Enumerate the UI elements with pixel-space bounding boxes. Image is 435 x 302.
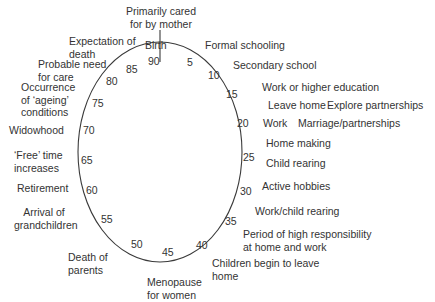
age-25: 25: [243, 151, 255, 163]
label-widowhood: Widowhood: [9, 124, 64, 137]
label-high-responsibility: Period of high responsibility at home an…: [243, 228, 371, 253]
age-50: 50: [131, 238, 143, 250]
age-85: 85: [126, 63, 138, 75]
label-formal-schooling: Formal schooling: [205, 39, 285, 52]
label-work-higher-education: Work or higher education: [262, 81, 379, 94]
label-line: at home and work: [243, 241, 371, 254]
label-line: Death of: [68, 251, 108, 264]
label-line: conditions: [21, 106, 75, 119]
label-free-time: ‘Free’ time increases: [14, 149, 63, 174]
label-birth: Birth: [145, 39, 167, 52]
label-menopause: Menopause for women: [147, 276, 202, 301]
label-marriage-partnerships: Marriage/partnerships: [298, 117, 400, 130]
label-child-rearing: Child rearing: [266, 157, 326, 170]
label-line: Primarily cared: [118, 5, 204, 18]
label-children-leave-home: Children begin to leave home: [212, 257, 319, 282]
label-line: Children begin to leave: [212, 257, 319, 270]
label-death-of-parents: Death of parents: [68, 251, 108, 276]
age-80: 80: [106, 75, 118, 87]
age-5: 5: [187, 56, 193, 68]
label-line: for care: [38, 71, 106, 84]
label-line: home: [212, 270, 319, 283]
label-line: Expectation of: [69, 35, 136, 48]
label-line: grandchildren: [14, 219, 74, 232]
age-90: 90: [148, 55, 160, 67]
label-expectation-of-death: Expectation of death: [69, 35, 136, 60]
label-line: for by mother: [118, 18, 204, 31]
age-40: 40: [196, 239, 208, 251]
age-45: 45: [162, 246, 174, 258]
age-65: 65: [81, 154, 93, 166]
label-leave-home: Leave home: [268, 99, 326, 112]
label-retirement: Retirement: [17, 182, 68, 195]
age-55: 55: [101, 213, 113, 225]
age-70: 70: [83, 124, 95, 136]
age-20: 20: [237, 117, 249, 129]
label-home-making: Home making: [266, 137, 331, 150]
label-explore-partnerships: Explore partnerships: [327, 99, 423, 112]
label-arrival-grandchildren: Arrival of grandchildren: [14, 206, 74, 231]
label-line: of ‘ageing’: [21, 94, 75, 107]
label-line: parents: [68, 264, 108, 277]
label-line: for women: [147, 289, 202, 302]
label-line: Arrival of: [14, 206, 74, 219]
age-75: 75: [92, 97, 104, 109]
label-primarily-cared: Primarily cared for by mother: [118, 5, 204, 30]
age-30: 30: [240, 185, 252, 197]
label-line: Period of high responsibility: [243, 228, 371, 241]
label-work: Work: [263, 117, 287, 130]
label-line: death: [69, 48, 136, 61]
age-15: 15: [226, 88, 238, 100]
label-ageing-conditions: Occurrence of ‘ageing’ conditions: [21, 81, 75, 119]
age-60: 60: [86, 184, 98, 196]
label-work-child-rearing: Work/child rearing: [255, 205, 339, 218]
label-secondary-school: Secondary school: [233, 59, 316, 72]
label-active-hobbies: Active hobbies: [262, 180, 330, 193]
label-need-for-care: Probable need for care: [38, 58, 106, 83]
age-35: 35: [225, 215, 237, 227]
label-line: Menopause: [147, 276, 202, 289]
age-10: 10: [208, 69, 220, 81]
label-line: increases: [14, 162, 63, 175]
label-line: ‘Free’ time: [14, 149, 63, 162]
